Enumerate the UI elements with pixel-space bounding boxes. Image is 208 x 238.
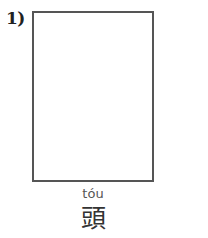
chinese-character: 頭: [0, 204, 186, 234]
item-number: 1): [6, 8, 25, 28]
drawing-box[interactable]: [32, 11, 154, 182]
pinyin-label: tóu: [0, 186, 186, 201]
